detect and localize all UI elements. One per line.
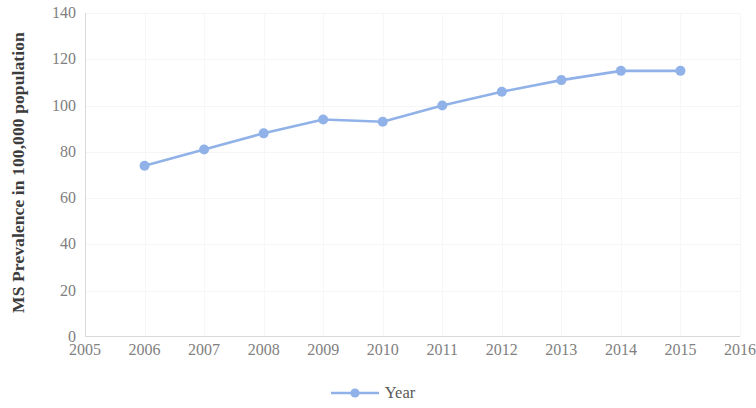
x-tick-label: 2014	[605, 341, 637, 359]
x-tick-label: 2010	[367, 341, 399, 359]
data-point-marker	[616, 66, 626, 76]
series-line	[145, 71, 681, 166]
y-tick-label: 100	[52, 97, 76, 115]
data-series-year	[85, 13, 740, 337]
data-point-marker	[318, 114, 328, 124]
y-axis-tick-labels: 020406080100120140	[36, 0, 80, 345]
y-tick-label: 120	[52, 50, 76, 68]
y-tick-label: 80	[60, 143, 76, 161]
y-axis-title: MS Prevalence in 100,000 population	[0, 0, 36, 345]
chart-legend: Year	[0, 380, 744, 406]
x-tick-label: 2008	[248, 341, 280, 359]
data-point-marker	[556, 75, 566, 85]
y-axis-title-text: MS Prevalence in 100,000 population	[8, 32, 29, 313]
x-tick-label: 2011	[427, 341, 458, 359]
line-marker-icon	[329, 385, 381, 401]
x-tick-label: 2009	[307, 341, 339, 359]
data-point-marker	[199, 145, 209, 155]
x-tick-label: 2006	[129, 341, 161, 359]
x-tick-label: 2012	[486, 341, 518, 359]
data-point-marker	[497, 87, 507, 97]
y-tick-label: 20	[60, 282, 76, 300]
x-tick-label: 2005	[69, 341, 101, 359]
x-axis-tick-labels: 2005200620072008200920102011201220132014…	[85, 341, 740, 365]
plot-area	[85, 13, 740, 337]
x-tick-label: 2016	[724, 341, 756, 359]
data-point-marker	[140, 161, 150, 171]
data-point-marker	[437, 101, 447, 111]
x-tick-label: 2013	[545, 341, 577, 359]
data-point-marker	[259, 128, 269, 138]
gridline	[740, 13, 741, 337]
x-tick-label: 2007	[188, 341, 220, 359]
y-tick-label: 40	[60, 235, 76, 253]
data-point-marker	[378, 117, 388, 127]
x-tick-label: 2015	[664, 341, 696, 359]
y-tick-label: 140	[52, 4, 76, 22]
y-tick-label: 60	[60, 189, 76, 207]
data-point-marker	[675, 66, 685, 76]
legend-label-year: Year	[385, 383, 415, 403]
